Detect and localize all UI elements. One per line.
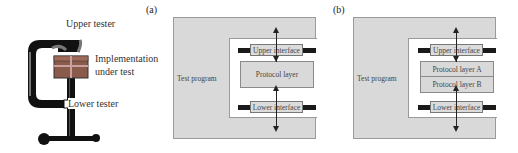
lower-tester-label: Lower tester xyxy=(68,98,118,109)
lower-arrow-line xyxy=(276,88,277,130)
arrow-down-icon xyxy=(453,126,459,132)
upper-tester-label: Upper tester xyxy=(66,18,115,29)
arrow-up-icon xyxy=(453,27,459,33)
arrow-down-icon xyxy=(273,126,279,132)
protocol-layer-box: Protocol layer xyxy=(240,61,314,88)
protocol-layer-a-box: Protocol layer A xyxy=(420,61,494,77)
iut-label-line1: Implementation xyxy=(95,53,158,64)
iut-label-line2: under test xyxy=(95,66,134,77)
arrow-up-icon xyxy=(273,27,279,33)
panel-b-tag: (b) xyxy=(333,4,345,15)
arrow-up-icon xyxy=(453,85,459,91)
test-program-label: Test program xyxy=(357,74,397,83)
arrow-down-icon xyxy=(273,56,279,62)
protocol-layer-label: Protocol layer xyxy=(256,70,298,79)
arrow-down-icon xyxy=(453,56,459,62)
lower-arrow-line xyxy=(456,88,457,130)
test-program-label: Test program xyxy=(177,74,217,83)
arrow-up-icon xyxy=(273,85,279,91)
protocol-layer-a-label: Protocol layer A xyxy=(432,65,481,74)
panel-a-tag: (a) xyxy=(146,4,157,15)
